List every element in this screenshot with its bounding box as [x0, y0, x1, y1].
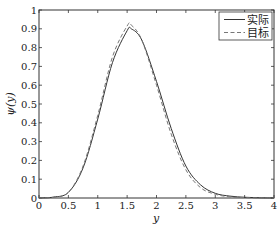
- x-tick-label: 1.5: [119, 200, 135, 211]
- y-tick-label: 0: [31, 193, 37, 204]
- y-tick-label: 0.8: [21, 42, 37, 53]
- x-tick-label: 3: [212, 200, 218, 211]
- y-tick-label: 0.1: [21, 174, 37, 185]
- y-tick-label: 1: [31, 5, 37, 16]
- legend-label-actual: 实际: [247, 13, 269, 27]
- legend: 实际 目标: [219, 12, 272, 40]
- y-tick-label: 0.5: [21, 99, 37, 110]
- y-tick-label: 0.9: [21, 23, 37, 34]
- y-tick-label: 0.2: [21, 155, 37, 166]
- y-axis-label: ψ(y): [4, 92, 17, 115]
- y-tick-label: 0.7: [21, 61, 37, 72]
- x-tick-label: 3.5: [237, 200, 253, 211]
- chart: 00.511.522.533.54 00.10.20.30.40.50.60.7…: [0, 0, 278, 230]
- y-tick-label: 0.4: [21, 117, 37, 128]
- x-tick-label: 2: [153, 200, 159, 211]
- x-tick-label: 2.5: [178, 200, 194, 211]
- x-tick-label: 4: [271, 200, 277, 211]
- legend-label-target: 目标: [247, 26, 269, 40]
- x-tick-label: 1: [95, 200, 101, 211]
- x-axis-label: y: [152, 212, 160, 225]
- y-tick-label: 0.6: [21, 80, 37, 91]
- y-tick-label: 0.3: [21, 136, 37, 147]
- x-tick-label: 0.5: [60, 200, 76, 211]
